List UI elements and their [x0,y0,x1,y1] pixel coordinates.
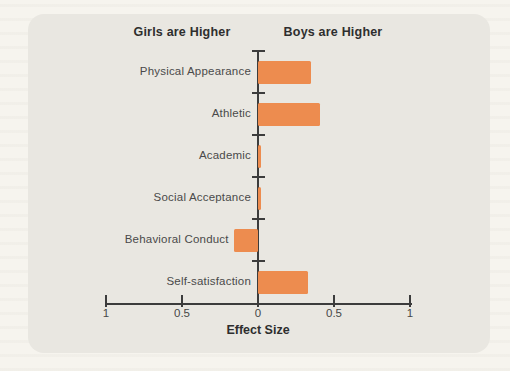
x-axis-tick-label: 0.5 [314,307,354,319]
category-label-social-acceptance: Social Acceptance [154,191,251,203]
x-axis-tick-label: 1 [86,307,126,319]
book-page: { "page": { "background": "#f6f4ee" }, "… [0,0,510,371]
x-axis-tick [181,295,183,307]
x-axis-tick [409,295,411,307]
bar-social-acceptance [258,187,261,210]
y-axis-tick [252,260,265,262]
bar-behavioral-conduct [234,229,258,252]
y-axis-tick [252,176,265,178]
category-label-academic: Academic [199,149,251,161]
y-axis-tick [252,134,265,136]
bar-academic [258,145,261,168]
figure-panel: Girls are Higher Boys are Higher Physica… [28,14,490,353]
x-axis-tick-label: 0.5 [162,307,202,319]
x-axis-tick [333,295,335,307]
category-label-athletic: Athletic [212,107,251,119]
category-label-self-satisfaction: Self-satisfaction [166,275,251,287]
x-axis-tick [105,295,107,307]
x-axis-tick-label: 0 [238,307,278,319]
bar-physical-appearance [258,61,311,84]
x-axis-line [106,303,412,305]
plot-area: Physical AppearanceAthleticAcademicSocia… [28,14,490,353]
x-axis-tick-label: 1 [390,307,430,319]
y-axis-tick [252,92,265,94]
bar-self-satisfaction [258,271,308,294]
category-label-physical-appearance: Physical Appearance [140,65,251,77]
x-axis-title: Effect Size [158,323,358,337]
x-axis-tick [257,295,259,307]
y-axis-tick [252,50,265,52]
y-axis-tick [252,218,265,220]
category-label-behavioral-conduct: Behavioral Conduct [125,233,229,245]
bar-athletic [258,103,320,126]
